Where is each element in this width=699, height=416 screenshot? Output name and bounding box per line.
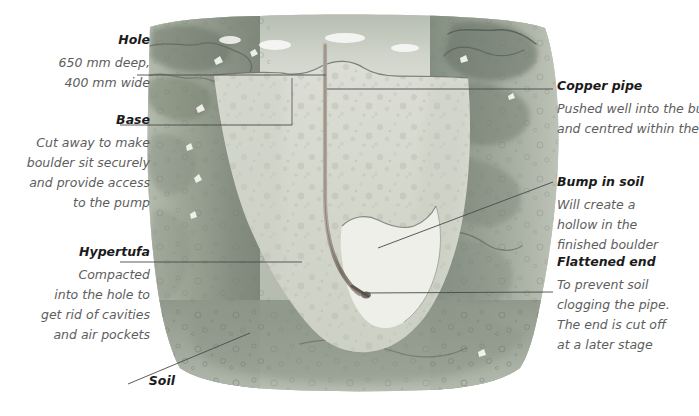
annotation-soil: Soil (95, 374, 175, 388)
annotation-hypertufa-line-3: get rid of cavities (0, 305, 150, 325)
annotation-flattened-end: Flattened end To prevent soil clogging t… (557, 252, 699, 355)
annotation-copper-pipe-line-1: Pushed well into the bump (557, 99, 699, 119)
figure-canvas: Hole 650 mm deep, 400 mm wide Base Cut a… (0, 0, 699, 416)
annotation-bump-in-soil-heading: Bump in soil (557, 172, 699, 192)
annotation-copper-pipe: Copper pipe Pushed well into the bump an… (557, 76, 699, 139)
annotation-bump-in-soil-line-1: Will create a (557, 195, 699, 215)
annotation-flattened-end-line-4: at a later stage (557, 335, 699, 355)
annotation-hypertufa: Hypertufa Compacted into the hole to get… (0, 242, 150, 345)
annotation-hole-line-1: 650 mm deep, (0, 53, 150, 73)
annotation-hypertufa-line-1: Compacted (0, 265, 150, 285)
annotation-hole-heading: Hole (0, 30, 150, 50)
annotation-soil-heading: Soil (95, 374, 175, 388)
annotation-bump-in-soil: Bump in soil Will create a hollow in the… (557, 172, 699, 255)
annotation-base-line-2: boulder sit securely (0, 153, 150, 173)
annotation-flattened-end-line-3: The end is cut off (557, 315, 699, 335)
annotation-hole: Hole 650 mm deep, 400 mm wide (0, 30, 150, 93)
annotation-hypertufa-heading: Hypertufa (0, 242, 150, 262)
annotation-base-line-1: Cut away to make (0, 133, 150, 153)
annotation-flattened-end-line-2: clogging the pipe. (557, 295, 699, 315)
annotation-base-heading: Base (0, 110, 150, 130)
annotation-hypertufa-line-2: into the hole to (0, 285, 150, 305)
annotation-flattened-end-heading: Flattened end (557, 252, 699, 272)
annotation-hole-line-2: 400 mm wide (0, 73, 150, 93)
annotation-base: Base Cut away to make boulder sit secure… (0, 110, 150, 213)
annotation-hypertufa-line-4: and air pockets (0, 325, 150, 345)
annotation-copper-pipe-heading: Copper pipe (557, 76, 699, 96)
annotation-bump-in-soil-line-2: hollow in the (557, 215, 699, 235)
annotation-flattened-end-line-1: To prevent soil (557, 275, 699, 295)
annotation-copper-pipe-line-2: and centred within the hole (557, 119, 699, 139)
annotation-base-line-3: and provide access (0, 173, 150, 193)
annotation-base-line-4: to the pump (0, 193, 150, 213)
